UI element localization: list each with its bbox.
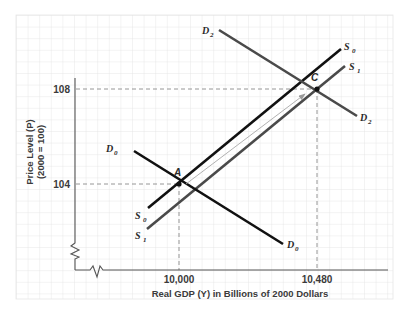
svg-text:1: 1 — [143, 236, 147, 244]
svg-text:D: D — [359, 112, 367, 123]
x-tick-10000: 10,000 — [164, 274, 195, 285]
chart: A C D 0 D 0 S 0 S 0 S 1 S 1 D 2 D 2 108 … — [0, 0, 408, 316]
y-tick-108: 108 — [53, 84, 70, 95]
svg-text:S: S — [344, 41, 350, 52]
svg-text:D: D — [105, 143, 113, 154]
svg-text:0: 0 — [143, 216, 147, 224]
svg-text:2: 2 — [209, 31, 214, 39]
svg-text:D: D — [286, 239, 294, 250]
x-axis-label: Real GDP (Y) in Billions of 2000 Dollars — [152, 288, 329, 299]
grid-background — [16, 15, 393, 299]
svg-text:2: 2 — [367, 118, 372, 126]
svg-text:0: 0 — [114, 149, 118, 157]
svg-text:1: 1 — [357, 67, 361, 75]
point-c-marker — [314, 86, 319, 91]
svg-text:S: S — [135, 230, 141, 241]
svg-text:Price Level (P): Price Level (P) — [24, 119, 35, 184]
point-c-label: C — [311, 72, 319, 83]
y-axis-label: Price Level (P) (2000 = 100) — [24, 119, 46, 184]
point-a-label: A — [173, 167, 181, 178]
svg-text:(2000 = 100): (2000 = 100) — [35, 125, 46, 179]
svg-text:0: 0 — [352, 47, 356, 55]
y-tick-104: 104 — [53, 179, 70, 190]
svg-text:S: S — [349, 61, 355, 72]
point-a-marker — [176, 181, 181, 186]
svg-text:D: D — [201, 25, 209, 36]
x-tick-10480: 10,480 — [302, 274, 333, 285]
svg-text:S: S — [135, 210, 141, 221]
svg-text:0: 0 — [295, 245, 299, 253]
